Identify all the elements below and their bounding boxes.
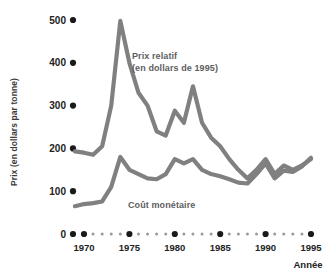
x-tick-dot (126, 231, 132, 237)
x-minor-tick-dot (146, 233, 149, 236)
series-line-cout-monetaire (75, 157, 311, 206)
y-tick-label: 400 (49, 57, 66, 68)
x-axis-title: Année (293, 259, 322, 270)
series-one-label-line2: (en dollars de 1995) (132, 63, 218, 73)
x-minor-tick-dot (182, 233, 185, 236)
x-axis-minor-tick-dots (92, 233, 304, 236)
y-tick-label: 0 (60, 229, 66, 240)
x-minor-tick-dot (273, 233, 276, 236)
x-minor-tick-dot (92, 233, 95, 236)
x-tick-label: 1985 (210, 242, 232, 253)
y-tick-dot (70, 231, 76, 237)
x-tick-dot (308, 231, 314, 237)
data-series-group (75, 21, 311, 206)
line-chart: Prix (en dollars par tonne) 010020030040… (0, 0, 328, 276)
series-one-label-line1: Prix relatif (132, 51, 178, 61)
y-tick-dot (70, 17, 76, 23)
y-axis-tick-labels: 0100200300400500 (49, 15, 66, 240)
x-axis-tick-labels: 197019751980198519901995 (73, 242, 322, 253)
y-axis-title: Prix (en dollars par tonne) (9, 78, 19, 186)
x-tick-dot (217, 231, 223, 237)
x-tick-dot (81, 231, 87, 237)
x-minor-tick-dot (291, 233, 294, 236)
x-tick-label: 1980 (164, 242, 185, 253)
x-minor-tick-dot (201, 233, 204, 236)
y-tick-label: 200 (49, 143, 66, 154)
x-minor-tick-dot (300, 233, 303, 236)
x-minor-tick-dot (210, 233, 213, 236)
y-tick-label: 500 (49, 15, 66, 26)
series-two-label-line1: Coût monétaire (128, 200, 195, 210)
x-minor-tick-dot (101, 233, 104, 236)
x-minor-tick-dot (246, 233, 249, 236)
series-line-prix-relatif (75, 21, 311, 179)
x-tick-label: 1975 (119, 242, 141, 253)
series-two-annotation: Coût monétaire (128, 200, 195, 210)
x-minor-tick-dot (282, 233, 285, 236)
series-one-annotation: Prix relatif (en dollars de 1995) (132, 51, 218, 73)
chart-container: Prix (en dollars par tonne) 010020030040… (0, 0, 328, 276)
x-axis-tick-dots (81, 231, 314, 237)
y-tick-label: 300 (49, 100, 66, 111)
y-tick-dot (70, 60, 76, 66)
y-tick-dot (70, 188, 76, 194)
x-tick-dot (172, 231, 178, 237)
x-tick-label: 1970 (73, 242, 94, 253)
x-minor-tick-dot (119, 233, 122, 236)
x-tick-label: 1990 (255, 242, 276, 253)
x-tick-label: 1995 (300, 242, 322, 253)
x-minor-tick-dot (228, 233, 231, 236)
x-minor-tick-dot (237, 233, 240, 236)
x-minor-tick-dot (191, 233, 194, 236)
x-tick-dot (263, 231, 269, 237)
y-tick-label: 100 (49, 186, 66, 197)
y-tick-dot (70, 103, 76, 109)
x-minor-tick-dot (137, 233, 140, 236)
x-minor-tick-dot (110, 233, 113, 236)
x-minor-tick-dot (155, 233, 158, 236)
x-minor-tick-dot (255, 233, 258, 236)
x-minor-tick-dot (164, 233, 167, 236)
y-axis-title-group: Prix (en dollars par tonne) (9, 78, 19, 186)
